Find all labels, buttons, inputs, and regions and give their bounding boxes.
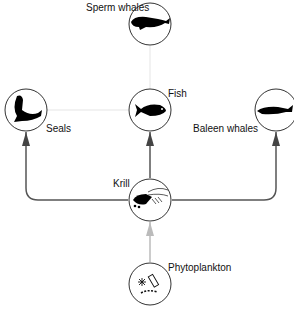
arrow-to-baleen <box>272 132 280 146</box>
label-krill: Krill <box>113 178 130 190</box>
label-phytoplankton: Phytoplankton <box>168 262 231 274</box>
arrow-to-fish <box>146 132 154 146</box>
edge-krill-baleen <box>172 132 276 200</box>
arrow-to-krill <box>146 222 154 236</box>
node-krill <box>129 179 171 221</box>
food-web-diagram <box>0 0 294 313</box>
label-fish: Fish <box>168 88 187 100</box>
label-baleen-whales: Baleen whales <box>193 123 258 135</box>
node-phytoplankton <box>129 263 171 305</box>
label-seals: Seals <box>46 123 71 135</box>
node-seals <box>5 89 47 131</box>
arrow-to-seals <box>22 132 30 146</box>
node-baleen-whales <box>255 89 294 131</box>
label-sperm-whales: Sperm whales <box>86 2 149 14</box>
node-fish <box>129 89 171 131</box>
